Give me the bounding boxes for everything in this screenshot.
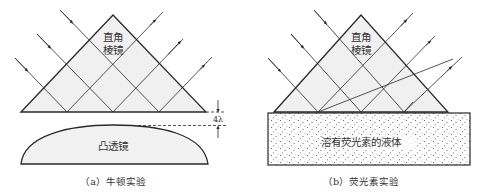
panel-b-fluorescein-experiment: 溶有荧光素的液体 直角 棱镜 （b）荧光素实验 bbox=[268, 10, 470, 187]
lens-label: 凸透镜 bbox=[98, 140, 129, 152]
caption-a: （a）牛顿实验 bbox=[80, 176, 146, 187]
prism-label-line1-b: 直角 bbox=[351, 31, 371, 43]
diagram-canvas: 直角 棱镜 凸透镜 4λ （a）牛顿实验 溶有荧光素的液体 bbox=[0, 0, 481, 194]
caption-b: （b）荧光素实验 bbox=[323, 176, 399, 187]
liquid-label: 溶有荧光素的液体 bbox=[321, 136, 402, 148]
panel-a-newton-experiment: 直角 棱镜 凸透镜 4λ （a）牛顿实验 bbox=[15, 10, 226, 187]
gap-label: 4λ bbox=[213, 115, 223, 124]
prism-label-line1: 直角 bbox=[103, 31, 123, 43]
prism-label-line2-b: 棱镜 bbox=[351, 44, 372, 56]
prism-label-line2: 棱镜 bbox=[103, 44, 124, 56]
